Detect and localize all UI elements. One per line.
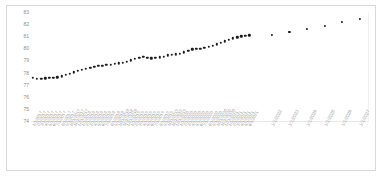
data-point (130, 59, 132, 61)
data-point (44, 77, 46, 79)
data-point (126, 60, 128, 62)
data-point (85, 68, 87, 70)
data-point (40, 78, 42, 80)
y-axis-tick-label: 79 (23, 58, 29, 63)
data-point (97, 65, 99, 67)
data-point-forecast (288, 31, 290, 33)
data-point (109, 63, 111, 65)
data-point (69, 72, 71, 74)
data-point (81, 69, 83, 71)
data-point (224, 40, 226, 42)
data-point (187, 49, 189, 51)
data-point (248, 34, 250, 36)
data-point (175, 53, 177, 55)
x-axis-tick-labels: 1/1/20172/1/20173/1/20174/1/20175/1/2017… (0, 125, 382, 175)
y-axis-tick-label: 78 (23, 70, 29, 75)
plot-axis-right (368, 12, 369, 122)
y-axis-tick-label: 76 (23, 94, 29, 99)
data-point (142, 56, 144, 58)
y-axis-tick-label: 77 (23, 82, 29, 87)
data-point (236, 36, 238, 38)
data-point-forecast (358, 18, 360, 20)
y-axis-tick-label: 80 (23, 46, 29, 51)
data-point (93, 66, 95, 68)
data-point (207, 46, 209, 48)
y-axis-tick-label: 75 (23, 106, 29, 111)
data-point (240, 35, 242, 37)
data-point (154, 57, 156, 59)
data-point (138, 57, 140, 59)
data-point (60, 75, 62, 77)
data-point (32, 77, 34, 79)
data-point (64, 74, 66, 76)
data-point (56, 76, 58, 78)
plot-area (31, 12, 368, 121)
data-point-forecast (341, 21, 343, 23)
data-point-forecast (306, 28, 308, 30)
y-axis-tick-label: 81 (23, 34, 29, 39)
data-point (232, 37, 234, 39)
data-point (203, 47, 205, 49)
data-point-forecast (271, 34, 273, 36)
data-point (179, 53, 181, 55)
data-point (244, 34, 246, 36)
data-point (73, 71, 75, 73)
data-point (162, 55, 164, 57)
data-point (216, 43, 218, 45)
data-point (118, 62, 120, 64)
data-point (191, 48, 193, 50)
data-point (228, 39, 230, 41)
data-point-forecast (323, 24, 325, 26)
data-point (158, 56, 160, 58)
data-point (134, 58, 136, 60)
data-point (36, 77, 38, 79)
data-point (220, 42, 222, 44)
data-point (122, 61, 124, 63)
y-axis-tick-label: 82 (23, 22, 29, 27)
data-point (113, 63, 115, 65)
data-point (52, 77, 54, 79)
data-point (171, 53, 173, 55)
data-point (101, 64, 103, 66)
data-point (48, 76, 50, 78)
data-point (195, 48, 197, 50)
y-axis-tick-label: 83 (23, 10, 29, 15)
chart-container: 83828180797877767574 1/1/20172/1/20173/1… (0, 0, 382, 178)
data-point (211, 44, 213, 46)
data-point (150, 57, 152, 59)
data-point (89, 67, 91, 69)
data-point (183, 51, 185, 53)
data-point (167, 54, 169, 56)
data-point (199, 47, 201, 49)
data-point (77, 70, 79, 72)
data-point (146, 57, 148, 59)
data-point (105, 64, 107, 66)
y-axis-tick-label: 74 (23, 119, 29, 124)
